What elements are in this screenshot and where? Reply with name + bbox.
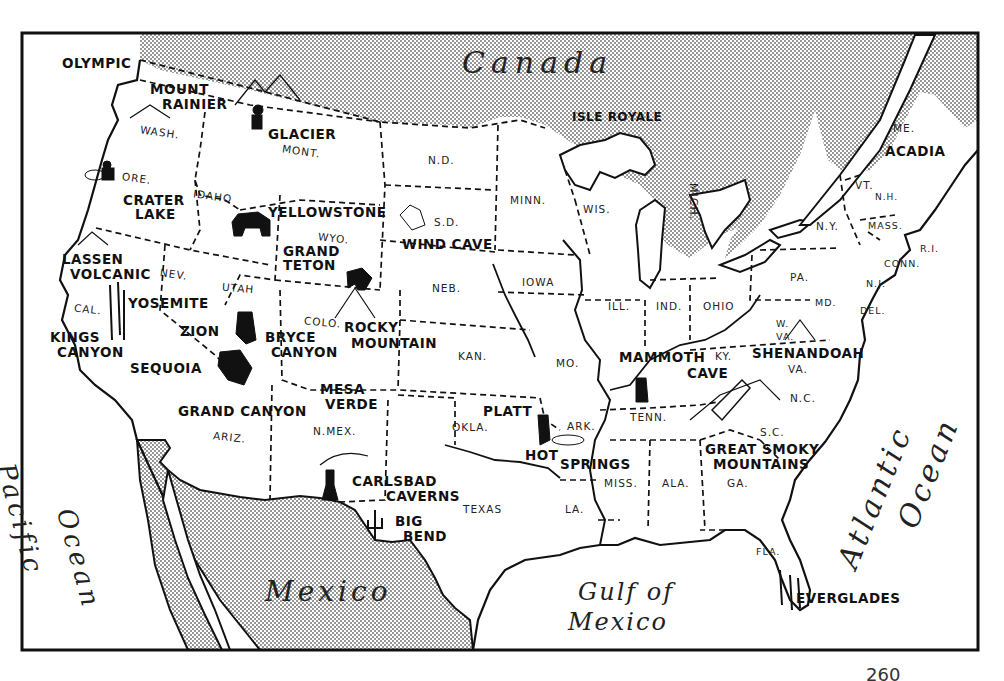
park-label-grand-canyon: GRAND CANYON bbox=[178, 404, 307, 419]
cave-icon bbox=[400, 205, 425, 230]
gulf-of-mexico-label-line2: Mexico bbox=[568, 608, 668, 636]
state-label-nmex: N.MEX. bbox=[313, 425, 356, 437]
state-label-okla: OKLA. bbox=[452, 421, 489, 433]
mountain-icon bbox=[335, 288, 375, 318]
caveman-icon bbox=[322, 470, 338, 500]
park-label-everglades: EVERGLADES bbox=[796, 591, 901, 606]
park-label-big-bend: BIG bbox=[395, 514, 423, 529]
state-label-sc: S.C. bbox=[760, 426, 785, 438]
park-label-bryce-canyon-2: CANYON bbox=[271, 345, 338, 360]
state-label-mass: MASS. bbox=[868, 220, 903, 231]
gulf-of-mexico-label-line1: Gulf of bbox=[578, 578, 674, 606]
state-label-minn: MINN. bbox=[510, 194, 546, 206]
stalactites-icon bbox=[320, 453, 368, 465]
state-label-neb: NEB. bbox=[432, 282, 461, 294]
cowboy-horse-icon bbox=[218, 350, 252, 385]
park-label-great-smoky-2: MOUNTAINS bbox=[713, 457, 809, 472]
state-label-vt: VT. bbox=[855, 179, 874, 191]
bighorn-sheep-icon bbox=[347, 268, 372, 290]
park-label-hot-springs-2: SPRINGS bbox=[560, 457, 631, 472]
state-label-ark: ARK. bbox=[567, 420, 596, 432]
park-label-mesa-verde-2: VERDE bbox=[325, 397, 378, 412]
park-label-mammoth-cave-2: CAVE bbox=[687, 366, 728, 381]
state-label-ky: KY. bbox=[715, 350, 732, 362]
hiker-icon bbox=[253, 105, 263, 115]
park-label-glacier: GLACIER bbox=[268, 127, 336, 142]
state-label-wva: W. VA. bbox=[776, 317, 796, 343]
state-label-del: DEL. bbox=[860, 305, 886, 316]
park-label-kings-canyon: KINGS bbox=[50, 330, 100, 345]
park-label-mount-rainier-2: RAINIER bbox=[162, 97, 227, 112]
state-label-conn: CONN. bbox=[884, 258, 920, 269]
state-label-me: ME. bbox=[893, 122, 915, 134]
mississippi-river bbox=[563, 240, 610, 545]
park-label-isle-royale: ISLE ROYALE bbox=[572, 110, 662, 125]
spring-pool-icon bbox=[552, 435, 584, 445]
state-label-ill: ILL. bbox=[608, 300, 630, 312]
state-label-mich: MICH. bbox=[687, 183, 700, 220]
park-label-rocky-mountain: ROCKY bbox=[344, 320, 399, 335]
state-label-nj: N.J. bbox=[866, 278, 886, 289]
state-label-nh: N.H. bbox=[875, 192, 898, 202]
hot-springs-person-icon bbox=[538, 415, 550, 445]
park-label-zion: ZION bbox=[180, 324, 220, 339]
state-label-kan: KAN. bbox=[458, 350, 487, 362]
park-label-mesa-verde: MESA bbox=[320, 382, 365, 397]
state-label-md: MD. bbox=[815, 297, 837, 308]
park-label-platt: PLATT bbox=[483, 404, 532, 419]
state-label-nc: N.C. bbox=[790, 392, 816, 404]
state-label-fla: FLA. bbox=[756, 546, 780, 557]
state-label-iowa: IOWA bbox=[522, 276, 554, 288]
park-label-big-bend-2: BEND bbox=[403, 529, 447, 544]
state-label-tenn: TENN. bbox=[630, 411, 667, 423]
state-label-mo: MO. bbox=[556, 357, 579, 369]
state-label-texas: TEXAS bbox=[463, 503, 502, 515]
park-label-carlsbad-caverns-2: CAVERNS bbox=[386, 489, 460, 504]
lake-michigan bbox=[636, 200, 665, 288]
state-label-ind: IND. bbox=[656, 300, 682, 312]
park-label-carlsbad-caverns: CARLSBAD bbox=[352, 474, 437, 489]
state-label-nd: N.D. bbox=[428, 154, 455, 166]
park-label-olympic: OLYMPIC bbox=[62, 56, 132, 71]
state-label-sd: S.D. bbox=[434, 216, 459, 228]
state-label-ohio: OHIO bbox=[703, 300, 735, 312]
park-label-sequoia: SEQUOIA bbox=[130, 361, 202, 376]
state-label-ga: GA. bbox=[727, 477, 748, 489]
park-label-crater-lake-2: LAKE bbox=[135, 207, 176, 222]
park-label-grand-teton-2: TETON bbox=[283, 258, 336, 273]
mountain-icon bbox=[78, 232, 108, 245]
park-label-mount-rainier: MOUNT bbox=[150, 82, 209, 97]
state-label-miss: MISS. bbox=[604, 477, 638, 489]
park-label-rocky-mountain-2: MOUNTAIN bbox=[351, 336, 437, 351]
park-label-shenandoah: SHENANDOAH bbox=[752, 346, 864, 361]
park-label-acadia: ACADIA bbox=[885, 144, 945, 159]
park-label-mammoth-cave: MAMMOTH bbox=[619, 350, 705, 365]
state-label-ny: N.Y. bbox=[816, 220, 839, 232]
us-national-parks-map bbox=[0, 0, 1004, 681]
park-label-great-smoky: GREAT SMOKY bbox=[705, 442, 819, 457]
explorer-icon bbox=[636, 378, 648, 402]
state-label-va: VA. bbox=[788, 363, 808, 375]
park-label-yosemite: YOSEMITE bbox=[128, 296, 209, 311]
state-label-pa: PA. bbox=[790, 271, 809, 283]
park-label-bryce-canyon: BRYCE bbox=[265, 330, 316, 345]
park-label-kings-canyon-2: CANYON bbox=[57, 345, 124, 360]
state-label-ala: ALA. bbox=[662, 477, 690, 489]
park-label-wind-cave: WIND CAVE bbox=[402, 237, 493, 252]
state-label-ri: R.I. bbox=[920, 243, 939, 254]
park-label-lassen-volcanic: LASSEN bbox=[62, 252, 123, 267]
park-label-yellowstone: YELLOWSTONE bbox=[268, 205, 387, 220]
state-label-la: LA. bbox=[565, 503, 584, 515]
rider-icon bbox=[236, 312, 256, 344]
bear-icon bbox=[232, 212, 270, 236]
sequoia-trees-icon bbox=[110, 282, 124, 340]
state-label-wis: WIS. bbox=[583, 203, 610, 215]
page-number: 260 bbox=[866, 664, 900, 681]
park-label-lassen-volcanic-2: VOLCANIC bbox=[70, 267, 151, 282]
canada-label: Canada bbox=[462, 45, 613, 80]
ohio-river bbox=[610, 295, 760, 390]
park-label-hot-springs: HOT bbox=[525, 448, 558, 463]
mexico-label: Mexico bbox=[265, 575, 392, 608]
